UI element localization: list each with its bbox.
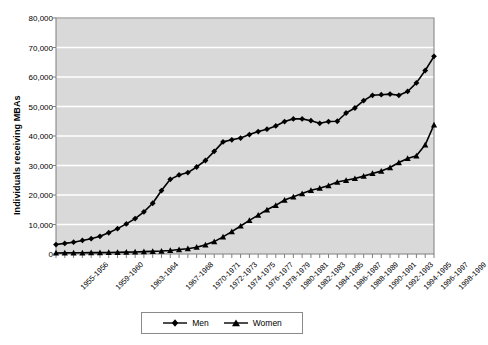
x-axis-tick-label: 1955-1956 bbox=[79, 260, 111, 292]
legend-label-men: Men bbox=[192, 318, 209, 328]
chart-legend: Men Women bbox=[141, 312, 303, 334]
x-axis-tick-label: 1967-1968 bbox=[184, 260, 216, 292]
legend-label-women: Women bbox=[253, 318, 282, 328]
legend-marker-triangle-icon bbox=[223, 318, 249, 328]
x-axis-tick-label: 1959-1960 bbox=[114, 260, 146, 292]
legend-item-men: Men bbox=[162, 318, 209, 328]
legend-item-women: Women bbox=[223, 318, 282, 328]
legend-marker-diamond-icon bbox=[162, 318, 188, 328]
x-axis-tick-label: 1963-1964 bbox=[149, 260, 181, 292]
